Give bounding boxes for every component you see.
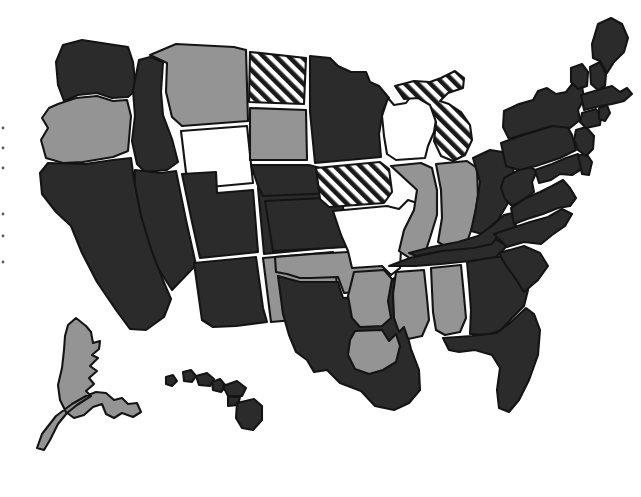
state-RI[interactable] [599,105,610,121]
state-MT[interactable] [150,44,248,126]
state-HI[interactable] [166,370,262,430]
states-layer [37,18,632,450]
state-IN[interactable] [436,161,478,248]
state-WA[interactable] [56,40,136,101]
us-map-svg [0,0,641,497]
state-ND[interactable] [249,52,306,104]
state-AR[interactable] [348,270,392,327]
state-IA[interactable] [316,162,392,207]
state-MS[interactable] [393,270,429,339]
state-AZ[interactable] [194,257,267,327]
state-VT[interactable] [571,64,588,89]
state-AL[interactable] [431,265,466,335]
state-SD[interactable] [250,108,307,160]
state-MN[interactable] [310,56,389,163]
state-AK[interactable] [37,318,141,450]
page-edge-speckles [2,127,5,264]
state-CT[interactable] [580,109,601,128]
us-choropleth-map [0,0,641,497]
state-OR[interactable] [41,96,131,163]
state-NJ[interactable] [574,127,594,156]
